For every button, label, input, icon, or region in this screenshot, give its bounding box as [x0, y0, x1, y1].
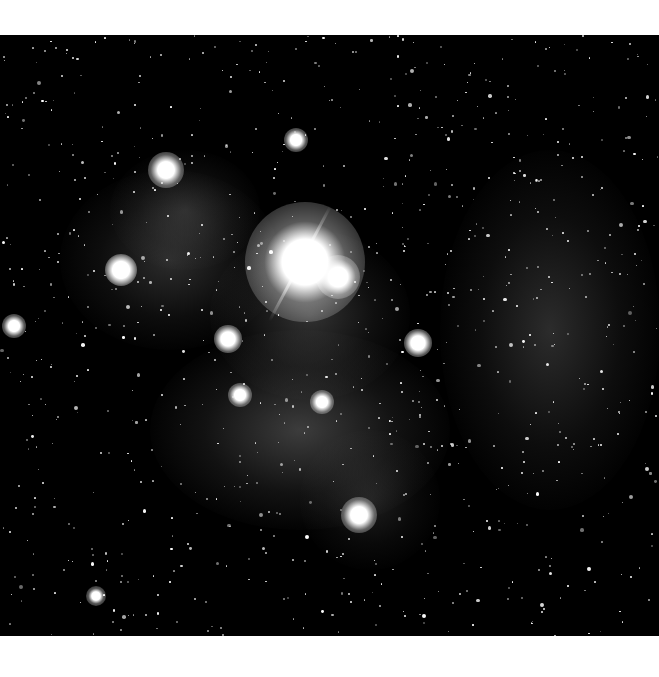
- star: [104, 37, 106, 39]
- star: [9, 531, 11, 533]
- star: [445, 134, 447, 136]
- star: [322, 37, 324, 39]
- star: [303, 627, 304, 628]
- star: [153, 334, 155, 336]
- star: [108, 324, 111, 327]
- star: [379, 121, 381, 123]
- star: [611, 272, 613, 274]
- star: [375, 563, 377, 565]
- star: [647, 64, 648, 65]
- star: [540, 603, 544, 607]
- star: [42, 482, 44, 484]
- star: [88, 211, 90, 213]
- star: [206, 498, 208, 500]
- star: [50, 41, 52, 43]
- star: [187, 252, 190, 255]
- star: [72, 57, 74, 59]
- star: [508, 249, 510, 251]
- star: [581, 176, 582, 177]
- star: [82, 321, 83, 322]
- star: [627, 136, 631, 140]
- star: [139, 75, 141, 77]
- star: [488, 94, 491, 97]
- star: [592, 194, 594, 196]
- star: [120, 210, 123, 213]
- star: [468, 238, 470, 240]
- star: [259, 71, 260, 72]
- star: [559, 431, 561, 433]
- star: [74, 179, 76, 181]
- star: [278, 442, 280, 444]
- star: [299, 468, 301, 470]
- star: [268, 51, 269, 52]
- star: [166, 259, 168, 261]
- star: [6, 104, 8, 106]
- star: [451, 184, 453, 186]
- star: [26, 439, 28, 441]
- star: [505, 256, 507, 258]
- star: [374, 560, 375, 561]
- star: [191, 162, 193, 164]
- star: [93, 492, 94, 493]
- star: [390, 443, 393, 446]
- star: [223, 428, 224, 429]
- star: [145, 614, 147, 616]
- star: [549, 47, 550, 48]
- star: [139, 157, 140, 158]
- star: [622, 621, 624, 623]
- star: [562, 232, 564, 234]
- star: [392, 212, 394, 214]
- star: [401, 536, 403, 538]
- star: [3, 527, 4, 528]
- star: [413, 42, 414, 43]
- star: [541, 611, 543, 613]
- star: [467, 82, 469, 84]
- star: [6, 237, 8, 239]
- star: [196, 513, 198, 515]
- star: [366, 282, 368, 284]
- star: [421, 407, 422, 408]
- star: [343, 578, 345, 580]
- star: [407, 238, 409, 240]
- star: [272, 90, 273, 91]
- star: [394, 138, 396, 140]
- star: [170, 548, 172, 550]
- star: [581, 473, 582, 474]
- star: [545, 118, 547, 120]
- star: [58, 253, 59, 254]
- star: [398, 517, 401, 520]
- star: [587, 230, 589, 232]
- star: [495, 346, 497, 348]
- star: [584, 590, 586, 592]
- star: [76, 58, 78, 60]
- star: [423, 204, 424, 205]
- star: [579, 378, 581, 380]
- star: [145, 419, 147, 421]
- star: [543, 608, 545, 610]
- star: [245, 319, 247, 321]
- star: [157, 612, 159, 614]
- star: [529, 334, 531, 336]
- star: [126, 305, 130, 309]
- star: [292, 379, 293, 380]
- star: [248, 558, 250, 560]
- star: [220, 627, 222, 629]
- bright-star: [105, 254, 137, 286]
- star: [304, 432, 306, 434]
- star: [606, 336, 607, 337]
- star: [642, 205, 644, 207]
- star: [22, 101, 24, 103]
- star: [79, 198, 81, 200]
- star: [498, 520, 500, 522]
- star: [374, 299, 376, 301]
- star: [36, 62, 37, 63]
- star: [41, 100, 43, 102]
- star: [276, 512, 278, 514]
- star: [45, 101, 46, 102]
- star: [229, 194, 231, 196]
- star: [576, 49, 578, 51]
- star: [390, 279, 391, 280]
- star: [237, 242, 238, 243]
- star: [216, 289, 218, 291]
- star: [21, 600, 23, 602]
